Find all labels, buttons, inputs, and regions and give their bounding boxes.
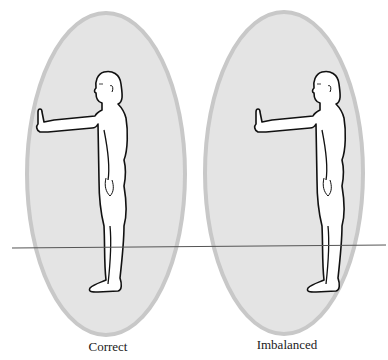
label-imbalanced: Imbalanced <box>227 337 347 353</box>
label-correct: Correct <box>48 339 168 355</box>
panel-imbalanced <box>205 12 363 334</box>
balance-diagram <box>0 0 388 360</box>
panel-correct <box>27 13 185 335</box>
